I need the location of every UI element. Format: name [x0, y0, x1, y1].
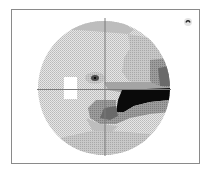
visual-field-plot	[0, 0, 211, 172]
blind-spot	[64, 77, 77, 99]
eye-icon	[183, 17, 193, 26]
